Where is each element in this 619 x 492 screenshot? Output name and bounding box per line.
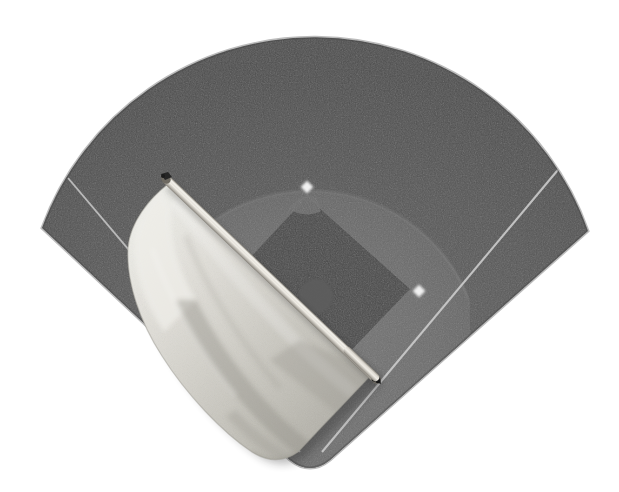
baseball-field-illustration: [0, 0, 619, 492]
image-canvas: Baseball field with draped flag Overhead…: [0, 0, 619, 492]
